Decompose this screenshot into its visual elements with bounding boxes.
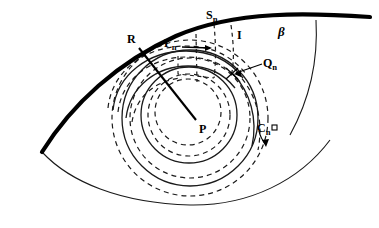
label-I: I: [237, 29, 242, 41]
dashed-arc-upper-left-b: [118, 57, 240, 112]
dashed-circle-third: [148, 74, 230, 156]
dashed-arc-stub-left: [132, 78, 182, 122]
label-gamma-n: Γn: [164, 37, 176, 49]
dashed-circle-outer: [112, 40, 268, 196]
figure-canvas: Sn Γn I β Qn R P Cn: [0, 0, 379, 228]
label-C-n: Cn: [257, 122, 270, 134]
solid-arc-upper-left-b: [126, 66, 235, 118]
label-Q-n: Qn: [263, 57, 277, 69]
label-P: P: [199, 123, 206, 135]
cn-anchor-tick: [272, 125, 277, 130]
dashed-circle-inner: [155, 79, 221, 145]
label-R: R: [127, 33, 136, 45]
dashed-arc-upper-left-a: [108, 46, 246, 108]
diagram-svg: [0, 0, 379, 228]
label-beta: β: [278, 25, 285, 38]
thin-lower-curve: [42, 140, 330, 205]
thin-right-curve: [290, 20, 316, 135]
dashed-circle-second: [130, 58, 250, 178]
radial-line-R-to-P: [139, 48, 196, 120]
label-S-n: Sn: [206, 9, 217, 21]
